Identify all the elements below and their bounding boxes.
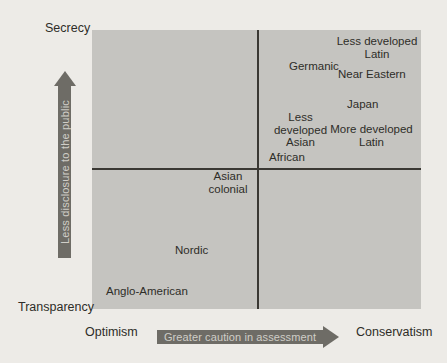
point-label-japan: Japan [347, 98, 378, 111]
y-axis-top-label: Secrecy [45, 22, 90, 35]
point-label-less-developed-asian: Less developed Asian [263, 111, 338, 149]
vertical-divider-line [257, 30, 259, 309]
point-label-germanic: Germanic [289, 60, 339, 73]
point-label-nordic: Nordic [175, 244, 208, 257]
y-axis-bottom-label: Transparency [18, 301, 94, 314]
x-axis-right-label: Conservatism [356, 326, 432, 339]
point-label-asian-colonial: Asian colonial [203, 170, 253, 195]
x-axis-left-label: Optimism [85, 326, 138, 339]
x-axis-arrow: Greater caution in assessment [157, 330, 323, 344]
y-axis-arrow-label: Less disclosure to the public [59, 100, 71, 244]
quadrant-chart: Secrecy Transparency Optimism Conservati… [0, 0, 447, 363]
point-label-more-developed-latin: More developed Latin [330, 123, 413, 148]
up-arrow-head-icon [54, 71, 76, 86]
horizontal-divider-line [92, 168, 421, 170]
x-axis-arrow-label: Greater caution in assessment [164, 331, 316, 343]
point-label-anglo-american: Anglo-American [106, 285, 188, 298]
y-axis-arrow: Less disclosure to the public [58, 86, 71, 258]
point-label-near-eastern: Near Eastern [338, 68, 406, 81]
point-label-less-developed-latin: Less developed Latin [336, 35, 418, 60]
right-arrow-head-icon [323, 326, 339, 348]
point-label-african: African [269, 151, 305, 164]
